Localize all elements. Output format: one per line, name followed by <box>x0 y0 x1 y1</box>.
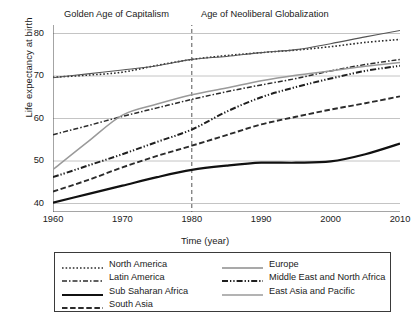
legend-swatch-icon <box>221 286 264 296</box>
gridlines <box>53 34 400 204</box>
legend-column-right: EuropeMiddle East and North AfricaEast A… <box>221 257 391 298</box>
legend-swatch-icon <box>61 259 104 269</box>
legend-swatch-icon <box>221 259 264 269</box>
x-tick-2000: 2000 <box>311 214 351 224</box>
legend-item-europe[interactable]: Europe <box>221 257 391 271</box>
line-chart-svg <box>53 25 400 212</box>
annotation-golden-age: Golden Age of Capitalism <box>64 9 169 19</box>
legend-item-sub-saharan-africa[interactable]: Sub Saharan Africa <box>61 284 221 298</box>
series-line-europe <box>53 31 400 78</box>
x-tick-1980: 1980 <box>172 214 212 224</box>
y-tick-40: 40 <box>22 198 44 208</box>
y-tick-60: 60 <box>22 113 44 123</box>
y-tick-70: 70 <box>22 70 44 80</box>
data-series <box>53 31 400 203</box>
legend: North AmericaLatin AmericaSub Saharan Af… <box>54 252 391 312</box>
y-tick-50: 50 <box>22 155 44 165</box>
legend-swatch-icon <box>61 286 104 296</box>
legend-swatch-icon <box>61 272 104 282</box>
series-line-east-asia-and-pacific <box>53 62 400 169</box>
x-axis-title: Time (year) <box>0 235 410 246</box>
legend-label: South Asia <box>109 299 153 309</box>
legend-swatch-icon <box>221 272 264 282</box>
legend-item-south-asia[interactable]: South Asia <box>61 298 221 312</box>
legend-swatch-icon <box>61 299 104 309</box>
legend-label: Sub Saharan Africa <box>109 286 188 296</box>
axis-ticks <box>53 34 400 213</box>
plot-area <box>53 25 400 212</box>
legend-label: North America <box>109 259 167 269</box>
legend-item-latin-america[interactable]: Latin America <box>61 271 221 285</box>
series-line-sub-saharan-africa <box>53 144 400 203</box>
legend-column-left: North AmericaLatin AmericaSub Saharan Af… <box>61 257 221 311</box>
legend-label: Latin America <box>109 272 165 282</box>
x-tick-2010: 2010 <box>380 214 415 224</box>
legend-item-middle-east-and-north-africa[interactable]: Middle East and North Africa <box>221 271 391 285</box>
legend-label: East Asia and Pacific <box>269 286 355 296</box>
x-tick-1970: 1970 <box>102 214 142 224</box>
y-tick-80: 80 <box>22 28 44 38</box>
legend-label: Middle East and North Africa <box>269 272 385 282</box>
legend-item-east-asia-and-pacific[interactable]: East Asia and Pacific <box>221 284 391 298</box>
legend-item-north-america[interactable]: North America <box>61 257 221 271</box>
x-tick-1960: 1960 <box>33 214 73 224</box>
series-line-latin-america <box>53 59 400 134</box>
legend-label: Europe <box>269 259 299 269</box>
annotation-neoliberal-age: Age of Neoliberal Globalization <box>201 9 329 19</box>
x-tick-1990: 1990 <box>241 214 281 224</box>
series-line-south-asia <box>53 96 400 191</box>
